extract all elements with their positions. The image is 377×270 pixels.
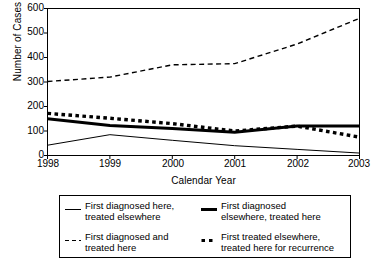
- x-tick-marks: [48, 156, 360, 160]
- legend-label-line2: elsewhere, treated here: [221, 211, 321, 222]
- legend-label: First treated elsewhere,treated here for…: [221, 231, 334, 253]
- legend-entry-first-diagnosed-elsewhere-treated-here[interactable]: First diagnosedelsewhere, treated here: [196, 196, 352, 227]
- legend-label: First diagnosed andtreated here: [85, 231, 168, 253]
- legend-label-line1: First diagnosed and: [85, 231, 168, 242]
- legend-entry-first-diagnosed-and-treated-here[interactable]: First diagnosed andtreated here: [60, 227, 196, 258]
- legend-swatch-thick-dotted-icon: [201, 232, 217, 243]
- data-series-layer: [48, 18, 360, 153]
- chart-figure: Number of Cases 600 500 400 300 200 100 …: [0, 0, 377, 270]
- legend-label: First diagnosed here,treated elsewhere: [85, 200, 174, 222]
- y-tick-marks: [44, 9, 48, 156]
- legend-label-line1: First diagnosed: [221, 200, 286, 211]
- chart-legend: First diagnosed here,treated elsewhere F…: [59, 195, 351, 258]
- legend-label-line1: First treated elsewhere,: [221, 231, 320, 242]
- legend-label-line2: treated here for recurrence: [221, 242, 334, 253]
- legend-label-line2: treated here: [85, 242, 136, 253]
- series-line-2: [48, 18, 360, 81]
- legend-label-line1: First diagnosed here,: [85, 200, 174, 211]
- legend-entry-first-diagnosed-here-treated-elsewhere[interactable]: First diagnosed here,treated elsewhere: [60, 196, 196, 227]
- plot-frame: [48, 9, 360, 156]
- legend-label-line2: treated elsewhere: [85, 211, 161, 222]
- legend-swatch-thin-dashed-icon: [65, 232, 81, 243]
- series-line-0: [48, 135, 360, 153]
- legend-entry-first-treated-elsewhere-treated-here-for-recurrence[interactable]: First treated elsewhere,treated here for…: [196, 227, 352, 258]
- legend-swatch-thick-solid-icon: [201, 201, 217, 212]
- legend-swatch-thin-solid-icon: [65, 201, 81, 212]
- legend-label: First diagnosedelsewhere, treated here: [221, 200, 321, 222]
- plot-area: [0, 0, 377, 190]
